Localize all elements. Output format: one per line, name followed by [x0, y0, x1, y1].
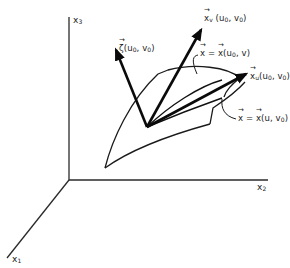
x1-subscript: 1	[17, 257, 21, 264]
surface-patch	[105, 67, 245, 168]
curve-u0-v-label: x = x(u0, v)	[200, 49, 250, 58]
curve-u-lhs: x	[238, 114, 243, 123]
curve-v-eq: =	[205, 48, 218, 58]
leader-curve-u0-v	[193, 55, 198, 74]
curve-u-rhs: x	[256, 114, 261, 123]
zeta-args-open: (u	[124, 43, 133, 53]
x3-axis-label: x3	[73, 16, 82, 25]
curve-v-rest: , v)	[236, 48, 250, 58]
leader-curve-u-v0	[222, 99, 236, 119]
x2-axis-label: x2	[257, 183, 266, 192]
xv-args-close: )	[243, 13, 246, 23]
xu-vector-label: xu(u0, v0)	[250, 72, 290, 81]
surface-tangent-vectors-diagram	[0, 0, 290, 268]
zeta-normal-vector	[116, 50, 147, 127]
x3-subscript: 3	[78, 18, 82, 25]
xv-vector-label: xv (u0, v0)	[204, 14, 247, 23]
x1-axis-label: x1	[12, 255, 21, 264]
zeta-symbol: ζ	[119, 44, 124, 53]
xv-args-open: (u	[213, 13, 225, 23]
xv-args-mid: , v	[228, 13, 239, 23]
xv-symbol: x	[204, 14, 209, 23]
x1-axis	[7, 180, 69, 258]
curve-v-lhs: x	[200, 49, 205, 58]
zeta-args-close: )	[151, 43, 154, 53]
curve-u-rest: )	[285, 113, 288, 123]
zeta-args-mid: , v	[137, 43, 148, 53]
curve-v-args: (u	[223, 48, 232, 58]
zeta-vector-label: ζ(u0, v0)	[119, 44, 155, 53]
x2-subscript: 2	[262, 185, 266, 192]
xu-args-open: (u	[259, 71, 268, 81]
xu-args-close: )	[287, 71, 290, 81]
curve-u-eq: =	[243, 113, 256, 123]
xu-args-mid: , v	[272, 71, 283, 81]
curve-u-v0-label: x = x(u, v0)	[238, 114, 288, 123]
curve-v-rhs: x	[218, 49, 223, 58]
curve-u-args: (u, v	[261, 113, 281, 123]
xu-symbol: x	[250, 72, 255, 81]
surface-edge-bottom	[105, 124, 210, 168]
surface-edge-top	[158, 67, 240, 78]
